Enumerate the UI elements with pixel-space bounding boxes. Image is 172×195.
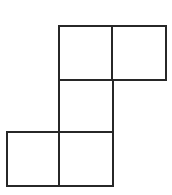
polyomino-figure	[0, 0, 172, 195]
figure-canvas	[0, 0, 172, 195]
square-middle	[59, 80, 113, 132]
square-top-right	[112, 26, 166, 80]
square-bottom-right	[59, 132, 113, 186]
square-bottom-left	[7, 132, 61, 186]
square-top-left	[59, 26, 113, 80]
